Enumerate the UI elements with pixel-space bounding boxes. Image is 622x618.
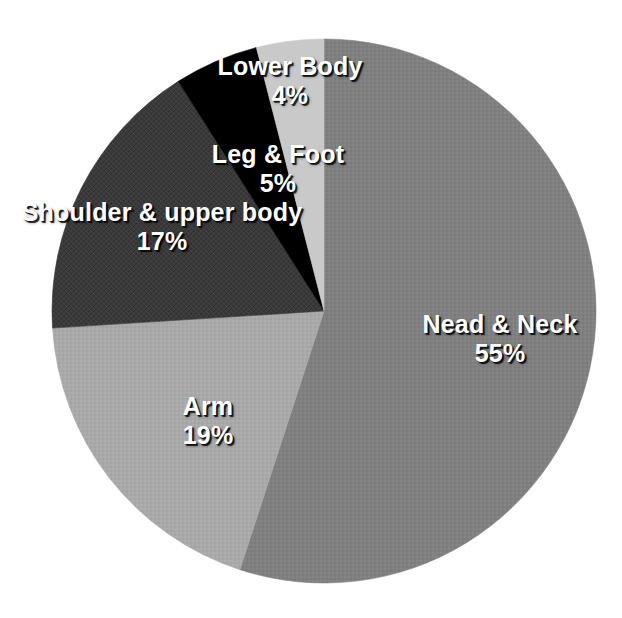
slice-label-leg-foot-value: 5% xyxy=(178,169,378,198)
slice-label-arm: Arm 19% xyxy=(132,392,284,450)
pie-chart: Nead & Neck 55% Arm 19% Shoulder & upper… xyxy=(0,0,622,618)
slice-label-head-neck-value: 55% xyxy=(400,339,600,368)
slice-label-head-neck-name: Nead & Neck xyxy=(400,310,600,339)
slice-label-leg-foot-name: Leg & Foot xyxy=(178,140,378,169)
slice-label-arm-value: 19% xyxy=(132,421,284,450)
slice-label-head-neck: Nead & Neck 55% xyxy=(400,310,600,368)
slice-label-arm-name: Arm xyxy=(132,392,284,421)
slice-label-shoulder-upper-body: Shoulder & upper body 17% xyxy=(14,198,310,256)
slice-label-lower-body-name: Lower Body xyxy=(180,52,400,81)
slice-label-lower-body-value: 4% xyxy=(180,81,400,110)
slice-label-shoulder-upper-body-name: Shoulder & upper body xyxy=(14,198,310,227)
slice-label-lower-body: Lower Body 4% xyxy=(180,52,400,110)
slice-label-shoulder-upper-body-value: 17% xyxy=(14,227,310,256)
slice-label-leg-foot: Leg & Foot 5% xyxy=(178,140,378,198)
